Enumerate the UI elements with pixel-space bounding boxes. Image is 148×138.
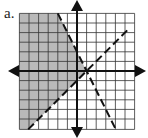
y-axis-down-arrow-icon xyxy=(71,127,83,138)
y-axis-up-arrow-icon xyxy=(71,0,83,11)
x-axis-left-arrow-icon xyxy=(8,65,19,77)
x-axis-right-arrow-icon xyxy=(135,65,146,77)
inequality-graph xyxy=(0,0,148,138)
